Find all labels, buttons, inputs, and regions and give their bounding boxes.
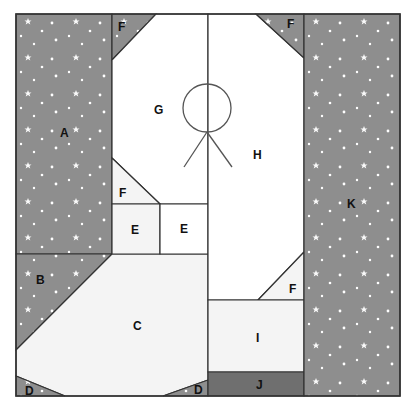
label-e-right: E (180, 222, 188, 236)
label-j: J (256, 378, 263, 392)
label-k: K (347, 197, 356, 211)
label-c: C (133, 319, 142, 333)
label-f-mid-right: F (289, 282, 296, 296)
label-e-left: E (131, 223, 139, 237)
quilt-diagram: A B C D D E E F F F F G H I J K (0, 0, 410, 410)
label-g: G (154, 103, 163, 117)
label-b: B (36, 273, 45, 287)
label-i: I (256, 331, 259, 345)
label-f-top-left: F (118, 20, 125, 34)
label-f-top-right: F (287, 17, 294, 31)
label-h: H (253, 148, 262, 162)
label-f-mid-left: F (119, 186, 126, 200)
label-a: A (60, 126, 69, 140)
label-d-right: D (194, 383, 203, 397)
label-d-left: D (25, 384, 34, 398)
